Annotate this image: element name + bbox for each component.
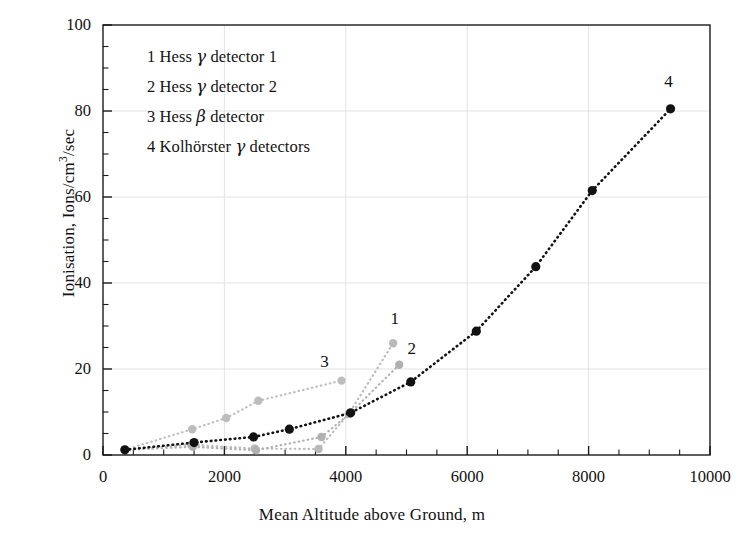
legend-greek-symbol: γ (196, 47, 206, 66)
data-point-4-1[interactable] (189, 438, 198, 447)
legend-entry-suffix: detector (206, 107, 264, 126)
series-tag-1: 1 (391, 309, 400, 329)
data-point-1-5[interactable] (389, 339, 397, 347)
y-tick-label: 100 (7, 15, 91, 35)
legend-greek-symbol: β (196, 107, 206, 126)
legend-entry-4: 4 Kolhörster γ detectors (147, 137, 310, 157)
series-tag-3: 3 (320, 352, 329, 372)
legend-entry-prefix: 4 Kolhörster (147, 137, 235, 156)
data-point-3-1[interactable] (188, 425, 196, 433)
x-tick-label: 2000 (179, 467, 269, 487)
legend-entry-2: 2 Hess γ detector 2 (147, 77, 277, 97)
x-axis-title: Mean Altitude above Ground, m (0, 505, 744, 525)
y-tick-label: 80 (7, 101, 91, 121)
data-point-2-5[interactable] (395, 361, 403, 369)
chart-canvas (0, 0, 744, 545)
y-axis-title: Ionisation, Ions/cm3/sec (57, 129, 79, 297)
x-tick-label: 4000 (301, 467, 391, 487)
legend-entry-3: 3 Hess β detector (147, 107, 264, 127)
y-tick-label: 60 (7, 187, 91, 207)
ionisation-vs-altitude-figure: Mean Altitude above Ground, m Ionisation… (0, 0, 744, 545)
data-point-1-3[interactable] (314, 445, 322, 453)
x-tick-label: 6000 (422, 467, 512, 487)
data-point-2-3[interactable] (317, 433, 325, 441)
data-point-4-0[interactable] (120, 445, 129, 454)
series-tag-4: 4 (664, 72, 673, 92)
x-tick-label: 0 (58, 467, 148, 487)
series-line-1 (125, 343, 393, 450)
x-tick-label: 10000 (665, 467, 744, 487)
series-3 (121, 376, 346, 454)
data-point-4-3[interactable] (285, 425, 294, 434)
x-tick-label: 8000 (544, 467, 634, 487)
data-point-3-3[interactable] (254, 397, 262, 405)
legend-entry-suffix: detectors (245, 137, 310, 156)
data-point-4-8[interactable] (588, 186, 597, 195)
data-point-4-9[interactable] (666, 104, 675, 113)
legend-entry-prefix: 1 Hess (147, 47, 196, 66)
legend-entry-suffix: detector 1 (206, 47, 277, 66)
data-point-4-7[interactable] (531, 262, 540, 271)
data-point-3-4[interactable] (337, 376, 345, 384)
data-point-3-2[interactable] (222, 414, 230, 422)
data-point-4-6[interactable] (472, 327, 481, 336)
y-tick-label: 40 (7, 273, 91, 293)
series-tag-2: 2 (408, 339, 417, 359)
y-axis-title-superscript: 3 (57, 156, 70, 162)
legend-entry-prefix: 2 Hess (147, 77, 196, 96)
data-point-4-2[interactable] (249, 432, 258, 441)
legend-entry-suffix: detector 2 (206, 77, 277, 96)
y-tick-label: 0 (7, 445, 91, 465)
data-point-2-2[interactable] (252, 446, 260, 454)
y-tick-label: 20 (7, 359, 91, 379)
data-point-4-5[interactable] (406, 377, 415, 386)
legend-entry-prefix: 3 Hess (147, 107, 196, 126)
data-point-4-4[interactable] (346, 408, 355, 417)
legend-greek-symbol: γ (196, 77, 206, 96)
legend-greek-symbol: γ (235, 137, 245, 156)
legend-entry-1: 1 Hess γ detector 1 (147, 47, 277, 67)
